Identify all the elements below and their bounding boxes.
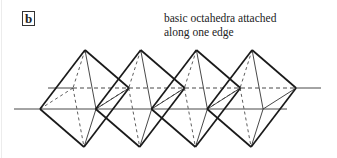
- outline-edge: [40, 109, 84, 147]
- outline-edge: [96, 50, 141, 109]
- visible-edge: [140, 109, 152, 147]
- outline-edge: [207, 50, 252, 109]
- hidden-edge: [240, 50, 252, 88]
- outline-edge: [141, 50, 185, 88]
- outline-edge: [151, 109, 195, 147]
- outline-edge: [251, 88, 296, 147]
- outline-edge: [252, 50, 296, 88]
- outline-edge: [85, 50, 129, 88]
- visible-edge: [195, 109, 207, 147]
- visible-edge: [263, 88, 296, 109]
- visible-edge: [84, 109, 96, 147]
- octahedra-chain-diagram: [0, 0, 337, 158]
- hidden-edge: [129, 50, 141, 88]
- outline-edge: [40, 50, 85, 109]
- hidden-edge: [73, 50, 85, 88]
- outline-edge: [151, 50, 196, 109]
- hidden-edge: [184, 50, 196, 88]
- outline-edge: [196, 50, 240, 88]
- visible-edge: [251, 109, 263, 147]
- outline-edge: [207, 109, 251, 147]
- outline-edge: [96, 109, 140, 147]
- hidden-edge: [40, 88, 73, 109]
